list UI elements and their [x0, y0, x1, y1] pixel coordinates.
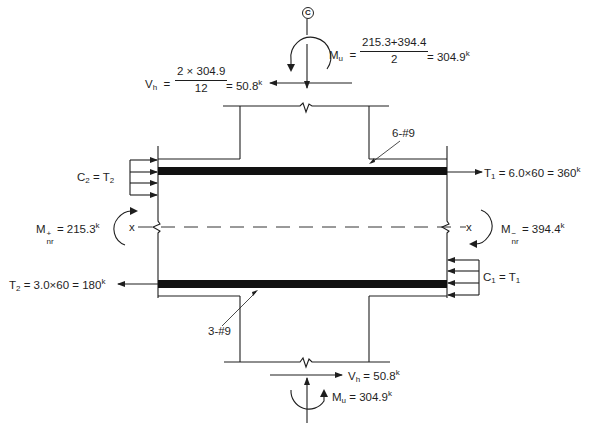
top-moment-arrow — [291, 37, 331, 69]
top-shear-fraction: 2 × 304.9 12 — [175, 66, 227, 94]
right-moment-label: M−nr = 394.4k — [501, 222, 565, 246]
bottom-reinforcement-bar — [158, 280, 447, 288]
left-tension-label: T2 = 3.0×60 = 180k — [9, 278, 105, 293]
bottom-bar-leader — [222, 292, 256, 326]
left-moment-label: M+nr = 215.3k — [36, 222, 100, 246]
right-axis-label: x — [466, 222, 472, 234]
bottom-moment-label: Mu = 304.9k — [332, 390, 392, 405]
right-compression-label: C1 = T1 — [483, 272, 520, 285]
bottom-bar-label: 3-#9 — [208, 326, 231, 338]
lower-column-cut — [224, 358, 390, 367]
top-moment-label: Mu = — [329, 50, 356, 63]
bottom-shear-label: Vh = 50.8k — [348, 369, 400, 384]
top-bar-label: 6-#9 — [392, 128, 415, 140]
left-compression-arrows — [130, 160, 157, 195]
top-shear-label: Vh = — [145, 79, 170, 92]
left-axis-label: x — [129, 222, 135, 234]
joint-free-body-diagram — [0, 0, 597, 437]
right-tension-label: T1 = 6.0×60 = 360k — [484, 166, 580, 181]
top-reinforcement-bar — [158, 167, 447, 175]
top-moment-result: = 304.9k — [427, 50, 470, 64]
left-compression-label: C2 = T2 — [77, 172, 114, 185]
centerline-symbol-icon: C — [302, 7, 314, 19]
upper-column-cut — [223, 103, 389, 112]
top-shear-result: = 50.8k — [226, 79, 262, 93]
top-moment-fraction: 215.3+394.4 2 — [360, 37, 428, 65]
right-moment-arrow — [476, 210, 492, 244]
top-bar-leader — [371, 141, 400, 163]
right-compression-arrows — [448, 260, 479, 295]
